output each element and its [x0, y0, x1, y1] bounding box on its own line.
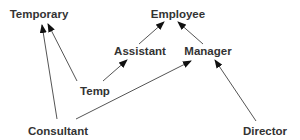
node-employee: Employee — [151, 8, 205, 20]
edge-temp-to-assistant — [103, 60, 127, 81]
node-temporary: Temporary — [10, 8, 69, 20]
edge-consultant-to-temporary — [42, 25, 57, 119]
nodes-group: Temporary Employee Assistant Manager Tem… — [10, 8, 288, 137]
edge-temp-to-temporary — [48, 24, 77, 81]
node-director: Director — [243, 125, 288, 137]
edges-group — [42, 22, 256, 121]
node-consultant: Consultant — [28, 125, 88, 137]
edge-assistant-to-employee — [139, 22, 164, 44]
node-manager: Manager — [184, 45, 232, 57]
edge-director-to-manager — [215, 60, 256, 121]
class-hierarchy-diagram: Temporary Employee Assistant Manager Tem… — [0, 0, 300, 140]
node-temp: Temp — [80, 85, 110, 97]
node-assistant: Assistant — [114, 45, 166, 57]
edge-manager-to-employee — [178, 22, 203, 44]
